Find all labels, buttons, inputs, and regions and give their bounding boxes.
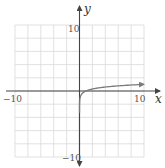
y-axis-label: y <box>83 2 91 16</box>
axis-labels: −10 10 10 −10 x y <box>3 2 162 163</box>
x-axis-label: x <box>155 92 162 106</box>
graph: −10 10 10 −10 x y <box>0 0 165 168</box>
axes <box>6 6 160 166</box>
x-min-tick-label: −10 <box>3 94 22 104</box>
y-min-tick-label: −10 <box>62 153 81 163</box>
x-max-tick-label: 10 <box>134 94 146 104</box>
y-max-tick-label: 10 <box>68 24 80 34</box>
